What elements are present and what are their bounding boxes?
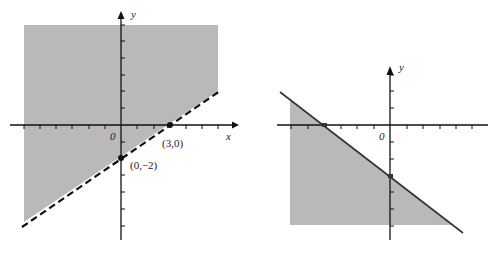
left-y-axis-label: y [130, 8, 136, 20]
left-y-arrow-icon [118, 11, 125, 19]
right-x-intercept-marker [322, 123, 327, 127]
right-origin-label: 0 [379, 130, 385, 142]
right-y-arrow-icon [387, 66, 394, 75]
left-point-label-0-neg2: (0,−2) [130, 159, 158, 172]
left-point-label-3-0: (3,0) [162, 137, 183, 150]
right-graph: y 0 [277, 61, 488, 240]
left-x-arrow-icon [232, 122, 239, 129]
left-point-3-0 [167, 122, 173, 128]
right-y-axis-label: y [398, 61, 404, 73]
left-point-0-neg2 [118, 155, 124, 161]
left-origin-label: 0 [110, 130, 116, 142]
left-x-axis-label: x [225, 130, 231, 142]
left-graph: y x 0 (3,0) (0,−2) [10, 8, 239, 240]
figure-canvas: y x 0 (3,0) (0,−2) [0, 0, 488, 255]
right-y-intercept-marker [388, 174, 393, 178]
